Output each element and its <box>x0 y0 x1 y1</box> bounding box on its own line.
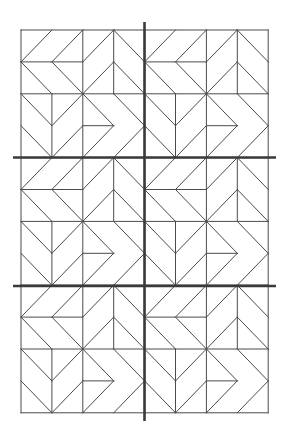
pattern-line <box>114 158 145 190</box>
pattern-line <box>21 62 52 94</box>
pattern-line <box>114 381 145 413</box>
pattern-line <box>21 253 52 285</box>
pattern-block <box>21 30 145 158</box>
pattern-line <box>206 62 237 94</box>
pattern-line <box>145 62 176 94</box>
pattern-line <box>114 285 145 317</box>
quilt-pattern-diagram <box>0 0 288 437</box>
pattern-line <box>21 158 52 190</box>
pattern-line <box>176 158 207 190</box>
pattern-line <box>21 126 52 158</box>
pattern-line <box>114 62 145 94</box>
pattern-line <box>145 221 176 253</box>
pattern-line <box>52 349 83 381</box>
pattern-line <box>176 317 207 349</box>
pattern-line <box>237 221 268 253</box>
pattern-line <box>237 62 268 94</box>
pattern-line <box>114 253 145 285</box>
pattern-line <box>52 158 83 190</box>
pattern-line <box>206 30 237 62</box>
pattern-line <box>114 126 145 158</box>
pattern-line <box>114 317 145 349</box>
pattern-line <box>52 126 83 158</box>
pattern-line <box>237 126 268 158</box>
pattern-line <box>83 381 114 413</box>
pattern-line <box>176 190 207 222</box>
pattern-line <box>237 317 268 349</box>
pattern-line <box>145 190 176 222</box>
pattern-line <box>237 253 268 285</box>
pattern-line <box>206 221 237 253</box>
pattern-line <box>206 349 237 381</box>
pattern-line <box>206 253 237 285</box>
pattern-line <box>52 94 83 126</box>
pattern-line <box>176 349 207 381</box>
pattern-line <box>145 30 176 62</box>
pattern-line <box>83 253 114 285</box>
pattern-line <box>206 317 237 349</box>
pattern-line <box>145 317 176 349</box>
pattern-line <box>145 285 176 317</box>
pattern-line <box>145 349 176 381</box>
pattern-line <box>176 94 207 126</box>
pattern-line <box>206 126 237 158</box>
pattern-line <box>206 94 237 126</box>
pattern-line <box>114 30 145 62</box>
pattern-line <box>21 94 52 126</box>
pattern-line <box>176 30 207 62</box>
pattern-line <box>52 317 83 349</box>
pattern-block <box>145 285 269 413</box>
pattern-line <box>83 317 114 349</box>
pattern-line <box>52 190 83 222</box>
pattern-line <box>21 349 52 381</box>
pattern-line <box>83 190 114 222</box>
pattern-line <box>52 30 83 62</box>
pattern-line <box>237 190 268 222</box>
pattern-line <box>83 94 114 126</box>
pattern-line <box>114 221 145 253</box>
pattern-line <box>114 190 145 222</box>
pattern-line <box>21 190 52 222</box>
pattern-line <box>176 253 207 285</box>
pattern-line <box>176 285 207 317</box>
pattern-block <box>145 30 269 158</box>
pattern-line <box>114 94 145 126</box>
pattern-line <box>206 285 237 317</box>
pattern-line <box>83 285 114 317</box>
pattern-line <box>83 30 114 62</box>
pattern-line <box>237 158 268 190</box>
pattern-line <box>52 285 83 317</box>
pattern-line <box>21 317 52 349</box>
pattern-line <box>206 190 237 222</box>
pattern-line <box>114 349 145 381</box>
pattern-block <box>145 158 269 286</box>
pattern-line <box>52 221 83 253</box>
pattern-line <box>176 221 207 253</box>
pattern-line <box>21 221 52 253</box>
pattern-line <box>145 253 176 285</box>
pattern-line <box>237 94 268 126</box>
pattern-line <box>83 126 114 158</box>
pattern-line <box>52 381 83 413</box>
pattern-line <box>237 30 268 62</box>
pattern-line <box>176 62 207 94</box>
pattern-line <box>52 253 83 285</box>
pattern-block <box>21 158 145 286</box>
pattern-line <box>145 381 176 413</box>
pattern-line <box>237 285 268 317</box>
pattern-line <box>83 62 114 94</box>
pattern-line <box>21 285 52 317</box>
pattern-line <box>83 349 114 381</box>
pattern-line <box>145 126 176 158</box>
pattern-line <box>206 158 237 190</box>
pattern-line <box>145 158 176 190</box>
pattern-line <box>176 126 207 158</box>
pattern-line <box>206 381 237 413</box>
pattern-line <box>237 381 268 413</box>
pattern-line <box>52 62 83 94</box>
pattern-line <box>83 221 114 253</box>
pattern-line <box>21 381 52 413</box>
pattern-line <box>237 349 268 381</box>
pattern-line <box>176 381 207 413</box>
pattern-line <box>83 158 114 190</box>
